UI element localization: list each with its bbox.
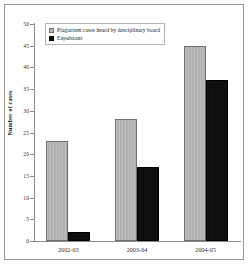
bar-group <box>34 24 240 241</box>
chart-figure: Number of cases 05101520253035404550 200… <box>0 0 249 265</box>
y-tick-label: 0 <box>3 238 29 244</box>
y-tick-label: 25 <box>3 130 29 136</box>
bar <box>206 80 228 241</box>
chart-legend: Plagiarism cases heard by desciplinary b… <box>45 23 165 45</box>
legend-item-series-1: Expulsions <box>49 34 160 42</box>
legend-swatch-icon <box>49 36 54 41</box>
bar <box>184 46 206 241</box>
y-tick-label: 30 <box>3 108 29 114</box>
x-tick-label: 2003-04 <box>107 246 167 254</box>
legend-swatch-icon <box>49 28 54 33</box>
y-tick-label: 50 <box>3 21 29 27</box>
y-tick-label: 40 <box>3 64 29 70</box>
y-tick-label: 15 <box>3 173 29 179</box>
x-tick-label: 2002-03 <box>38 246 98 254</box>
legend-label: Expulsions <box>57 35 82 42</box>
x-axis-line <box>34 241 241 242</box>
y-tick-label: 45 <box>3 43 29 49</box>
y-tick-label: 10 <box>3 195 29 201</box>
y-tick-label: 35 <box>3 86 29 92</box>
legend-label: Plagiarism cases heard by desciplinary b… <box>57 27 160 34</box>
x-tick-label: 2004-05 <box>176 246 236 254</box>
y-tick-label: 20 <box>3 151 29 157</box>
y-axis-labels: 05101520253035404550 <box>0 0 29 265</box>
y-tick-label: 5 <box>3 216 29 222</box>
legend-item-series-0: Plagiarism cases heard by desciplinary b… <box>49 26 160 34</box>
plot-area <box>34 24 240 241</box>
